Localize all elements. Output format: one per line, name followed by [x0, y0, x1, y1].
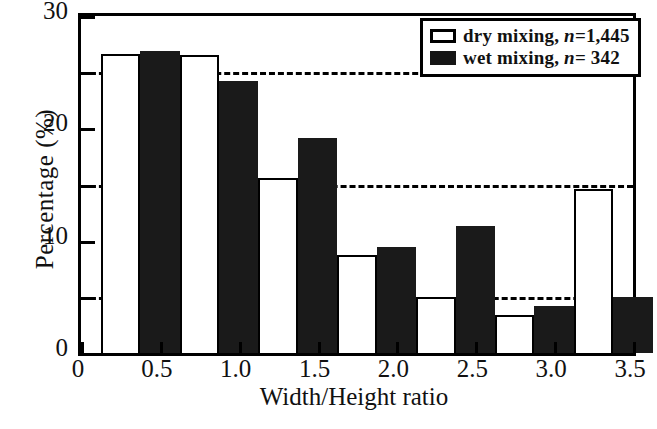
bar-wet-mixing-1.25 — [298, 138, 337, 353]
y-tick-0 — [81, 353, 95, 356]
bar-wet-mixing-0.25 — [140, 51, 179, 353]
x-tick-label-1.5: 1.5 — [280, 355, 350, 383]
legend-item-dry-mixing: dry mixing, n=1,445 — [430, 25, 630, 47]
legend-label-wet: wet mixing, n= 342 — [463, 47, 620, 69]
x-tick-2.0 — [396, 342, 399, 353]
x-tick-label-1.0: 1.0 — [201, 355, 271, 383]
y-tick-label-30: 30 — [8, 0, 68, 25]
bar-dry-mixing-2.75 — [495, 315, 534, 353]
x-tick-0.5 — [160, 342, 163, 353]
y-tick-label-0: 0 — [8, 334, 68, 362]
bar-dry-mixing-2.25 — [416, 297, 455, 353]
x-tick-2.5 — [475, 342, 478, 353]
legend-label-dry: dry mixing, n=1,445 — [463, 25, 630, 47]
x-tick-1.0 — [239, 342, 242, 353]
bar-wet-mixing-2.25 — [456, 226, 495, 353]
x-tick-3.5 — [633, 342, 636, 353]
x-tick-label-3.5: 3.5 — [595, 355, 657, 383]
bar-dry-mixing-3.25 — [574, 189, 613, 353]
bar-wet-mixing-0.75 — [219, 81, 258, 353]
x-tick-label-0.5: 0.5 — [122, 355, 192, 383]
x-tick-0 — [81, 342, 84, 353]
bar-wet-mixing-1.75 — [377, 247, 416, 353]
y-tick-20 — [81, 128, 95, 131]
x-tick-label-3.0: 3.0 — [516, 355, 586, 383]
chart-legend: dry mixing, n=1,445 wet mixing, n= 342 — [420, 18, 641, 77]
y-tick-10 — [81, 241, 95, 244]
y-tick-30 — [81, 16, 95, 19]
legend-swatch-wet-icon — [430, 51, 456, 65]
x-tick-3.0 — [554, 342, 557, 353]
x-axis-title: Width/Height ratio — [78, 383, 630, 411]
y-tick-minor-15 — [81, 185, 92, 188]
bar-dry-mixing-1.25 — [258, 178, 297, 353]
legend-swatch-dry-icon — [430, 29, 456, 43]
y-axis-title: Percentage (%) — [31, 49, 59, 329]
x-tick-label-2.5: 2.5 — [437, 355, 507, 383]
bar-dry-mixing-0.75 — [180, 55, 219, 353]
y-tick-label-10: 10 — [8, 222, 68, 250]
bar-dry-mixing-0.25 — [101, 54, 140, 353]
legend-item-wet-mixing: wet mixing, n= 342 — [430, 47, 630, 69]
y-tick-minor-25 — [81, 72, 92, 75]
x-tick-label-2.0: 2.0 — [358, 355, 428, 383]
x-tick-1.5 — [318, 342, 321, 353]
bar-dry-mixing-1.75 — [337, 255, 376, 353]
y-tick-minor-5 — [81, 297, 92, 300]
y-tick-label-20: 20 — [8, 109, 68, 137]
